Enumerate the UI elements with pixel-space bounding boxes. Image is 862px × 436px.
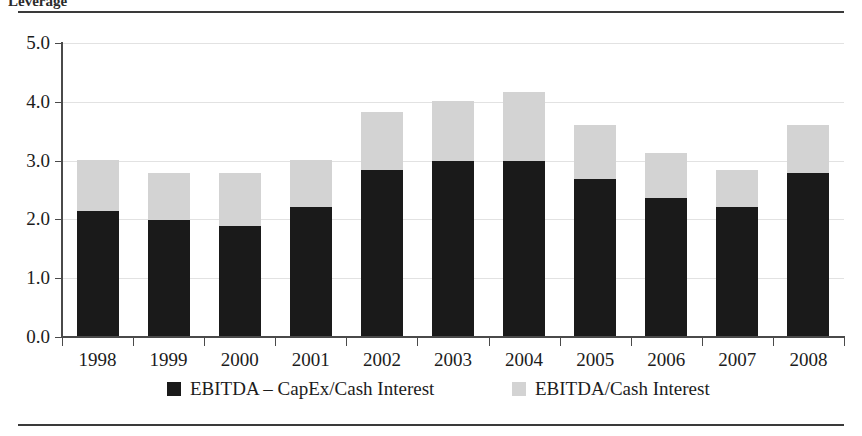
x-tick-label-2001: 2001	[275, 350, 346, 369]
bar-segment-ebitda-minus-capex	[574, 179, 616, 337]
bar-segment-ebitda	[716, 170, 758, 207]
chart-legend: EBITDA – CapEx/Cash InterestEBITDA/Cash …	[62, 376, 844, 406]
bar-1999	[148, 173, 190, 337]
bar-series-layer	[0, 0, 862, 337]
bar-2007	[716, 170, 758, 337]
x-tick-label-2006: 2006	[631, 350, 702, 369]
bar-segment-ebitda	[787, 125, 829, 173]
bar-2008	[787, 125, 829, 337]
x-tick-label-1999: 1999	[133, 350, 204, 369]
bar-1998	[77, 160, 119, 337]
x-tick-label-1998: 1998	[62, 350, 133, 369]
bar-segment-ebitda	[361, 112, 403, 170]
bar-2006	[645, 153, 687, 337]
bar-segment-ebitda-minus-capex	[432, 161, 474, 337]
x-tick-label-2007: 2007	[702, 350, 773, 369]
bar-segment-ebitda	[503, 92, 545, 161]
bar-2004	[503, 92, 545, 337]
bar-segment-ebitda-minus-capex	[716, 207, 758, 337]
chart-figure: Leverage 5.04.03.02.01.00.0 199819992000…	[0, 0, 862, 436]
bar-segment-ebitda	[77, 160, 119, 211]
x-tick-label-2008: 2008	[773, 350, 844, 369]
x-tick-mark	[773, 338, 774, 346]
bar-segment-ebitda	[290, 160, 332, 207]
bar-segment-ebitda-minus-capex	[77, 211, 119, 337]
x-tick-label-2005: 2005	[560, 350, 631, 369]
x-tick-mark	[275, 338, 276, 346]
bar-2005	[574, 125, 616, 337]
x-tick-mark	[417, 338, 418, 346]
bar-segment-ebitda	[219, 173, 261, 226]
x-axis-line	[61, 336, 845, 338]
bar-segment-ebitda-minus-capex	[148, 220, 190, 337]
x-tick-mark	[133, 338, 134, 346]
x-tick-mark	[560, 338, 561, 346]
bar-segment-ebitda-minus-capex	[290, 207, 332, 337]
x-tick-label-2003: 2003	[417, 350, 488, 369]
legend-item-ebitda[interactable]: EBITDA/Cash Interest	[512, 379, 710, 399]
bar-segment-ebitda-minus-capex	[645, 198, 687, 337]
bar-segment-ebitda	[148, 173, 190, 220]
bar-2002	[361, 112, 403, 337]
bar-2001	[290, 160, 332, 337]
x-tick-label-2004: 2004	[489, 350, 560, 369]
x-tick-mark	[346, 338, 347, 346]
legend-label: EBITDA/Cash Interest	[535, 379, 710, 399]
x-tick-mark	[844, 338, 845, 346]
legend-swatch-icon	[512, 382, 526, 396]
legend-swatch-icon	[167, 382, 181, 396]
x-tick-mark	[62, 338, 63, 346]
bar-segment-ebitda-minus-capex	[361, 170, 403, 337]
x-tick-mark	[702, 338, 703, 346]
x-tick-mark	[204, 338, 205, 346]
legend-label: EBITDA – CapEx/Cash Interest	[190, 379, 434, 399]
plot-area: 5.04.03.02.01.00.0 199819992000200120022…	[0, 0, 862, 436]
x-tick-mark	[489, 338, 490, 346]
x-tick-mark	[631, 338, 632, 346]
bar-segment-ebitda-minus-capex	[787, 173, 829, 337]
bar-2003	[432, 101, 474, 337]
bar-2000	[219, 173, 261, 337]
legend-item-ebitda-minus-capex[interactable]: EBITDA – CapEx/Cash Interest	[167, 379, 434, 399]
bar-segment-ebitda-minus-capex	[219, 226, 261, 337]
bar-segment-ebitda	[432, 101, 474, 161]
bar-segment-ebitda	[645, 153, 687, 198]
bar-segment-ebitda-minus-capex	[503, 161, 545, 337]
x-tick-label-2000: 2000	[204, 350, 275, 369]
x-tick-label-2002: 2002	[346, 350, 417, 369]
bar-segment-ebitda	[574, 125, 616, 179]
